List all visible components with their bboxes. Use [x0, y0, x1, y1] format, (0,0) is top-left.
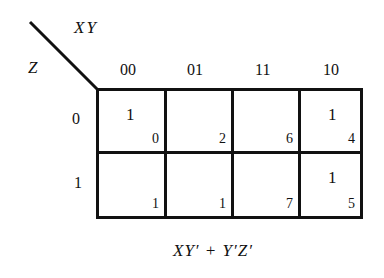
cell-index: 0 — [152, 131, 159, 147]
kmap-cell-m0: 1 0 — [99, 91, 164, 151]
kmap-cell-m5: 1 5 — [301, 154, 360, 216]
kmap-cell-m7: 7 — [234, 154, 298, 216]
row-header-0: 0 — [72, 110, 80, 128]
column-header-11: 11 — [255, 61, 270, 79]
cell-index: 4 — [348, 131, 355, 147]
kmap-grid: 1 0 2 6 1 4 1 1 7 1 5 — [96, 88, 363, 219]
kmap-cell-m3: 1 — [167, 154, 231, 216]
kmap-cell-m6: 6 — [234, 91, 298, 151]
cell-value: 1 — [328, 168, 337, 188]
cell-index: 5 — [348, 196, 355, 212]
cell-index: 1 — [219, 196, 226, 212]
corner-diagonal-line — [0, 0, 110, 100]
column-header-00: 00 — [120, 61, 136, 79]
cell-value: 1 — [126, 105, 135, 125]
simplified-expression: XY′ + Y′Z′ — [173, 241, 253, 261]
cell-value: 1 — [328, 105, 337, 125]
kmap-cell-m4: 1 4 — [301, 91, 360, 151]
column-header-01: 01 — [187, 61, 203, 79]
cell-index: 1 — [152, 196, 159, 212]
row-variable-label: Z — [28, 58, 39, 78]
cell-index: 2 — [219, 131, 226, 147]
column-variables-label: XY — [74, 18, 98, 38]
row-header-1: 1 — [74, 174, 82, 192]
column-header-10: 10 — [323, 61, 339, 79]
cell-index: 7 — [286, 196, 293, 212]
cell-index: 6 — [286, 131, 293, 147]
kmap-cell-m2: 2 — [167, 91, 231, 151]
kmap-cell-m1: 1 — [99, 154, 164, 216]
